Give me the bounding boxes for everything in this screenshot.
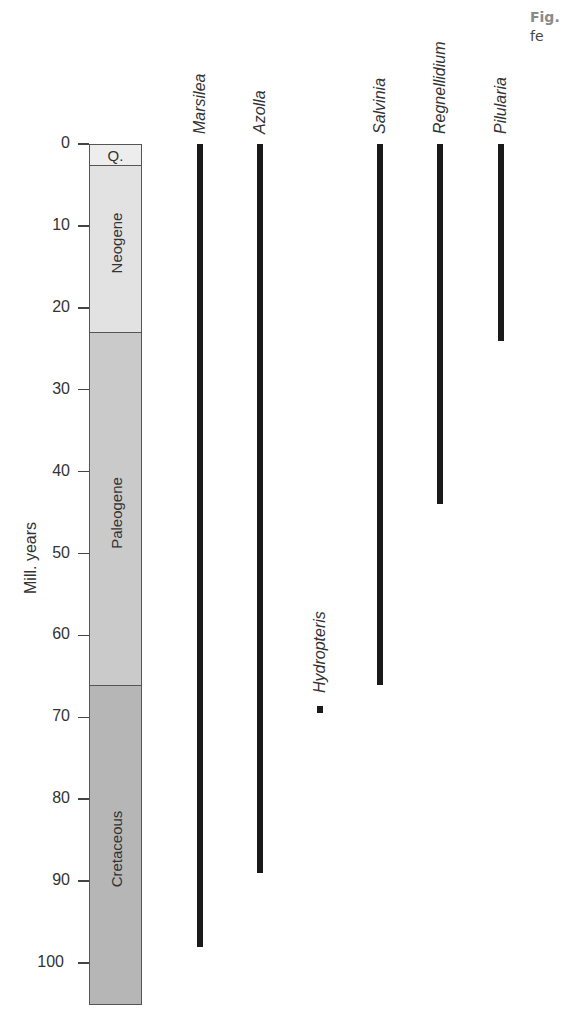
figure-caption-text: fe [530, 29, 544, 43]
period-label: Cretaceous [107, 810, 124, 887]
period-paleogene: Paleogene [89, 332, 142, 685]
y-tick-label: 40 [10, 463, 70, 479]
y-tick-label: 30 [10, 381, 70, 397]
y-tick [78, 880, 89, 882]
y-tick-label: 10 [10, 217, 70, 233]
figure-caption-title: Fig. [530, 10, 560, 24]
occurrence-point-hydropteris [317, 706, 323, 713]
y-tick [78, 307, 89, 309]
y-tick [78, 717, 89, 719]
y-tick-label: 90 [10, 872, 70, 888]
period-label: Paleogene [107, 477, 124, 549]
taxon-label-salvinia: Salvinia [371, 78, 389, 134]
period-label: Q. [108, 147, 124, 164]
period-q: Q. [89, 144, 142, 166]
y-tick [78, 553, 89, 555]
y-tick-label: 20 [10, 299, 70, 315]
y-tick [78, 471, 89, 473]
y-tick [78, 389, 89, 391]
range-chart: Fig. fe Mill. years 01020304050607080901… [0, 0, 564, 1013]
taxon-label-marsilea: Marsilea [191, 74, 209, 134]
y-tick-label: 50 [10, 545, 70, 561]
y-tick [78, 225, 89, 227]
period-label: Neogene [107, 212, 124, 273]
y-tick-label: 80 [10, 790, 70, 806]
y-tick [78, 798, 89, 800]
y-tick [78, 635, 89, 637]
y-tick [78, 962, 89, 964]
range-bar-marsilea [197, 144, 203, 947]
taxon-label-azolla: Azolla [251, 90, 269, 134]
y-tick [78, 143, 89, 145]
taxon-label-regnellidium: Regnellidium [431, 42, 449, 135]
y-tick-label: 0 [10, 135, 70, 151]
range-bar-regnellidium [437, 144, 443, 504]
period-cretaceous: Cretaceous [89, 685, 142, 1005]
taxon-label-hydropteris: Hydropteris [311, 611, 329, 693]
range-bar-azolla [257, 144, 263, 873]
period-neogene: Neogene [89, 165, 142, 333]
range-bar-pilularia [498, 144, 504, 341]
y-tick-label: 70 [10, 708, 70, 724]
taxon-label-pilularia: Pilularia [492, 77, 510, 134]
y-tick-label: 100 [4, 954, 64, 970]
range-bar-salvinia [377, 144, 383, 685]
y-tick-label: 60 [10, 626, 70, 642]
